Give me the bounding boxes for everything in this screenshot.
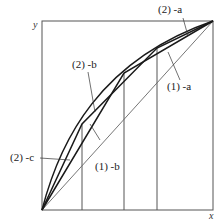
leader-2b	[88, 72, 95, 112]
leader-1a	[168, 52, 180, 80]
y-axis-label: y	[32, 19, 38, 30]
label-2a: (2) -a	[158, 3, 182, 16]
diagonal-line	[42, 21, 213, 210]
label-1a: (1) -a	[167, 80, 191, 93]
leader-1b	[90, 124, 100, 140]
x-axis-label: x	[208, 210, 214, 219]
label-2c: (2) -c	[10, 151, 34, 164]
label-2b: (2) -b	[72, 58, 97, 71]
label-1b: (1) -b	[95, 160, 120, 173]
diagram: y x (2) -a (2) -b (2) -c (1) -a (1) -b	[0, 0, 224, 219]
